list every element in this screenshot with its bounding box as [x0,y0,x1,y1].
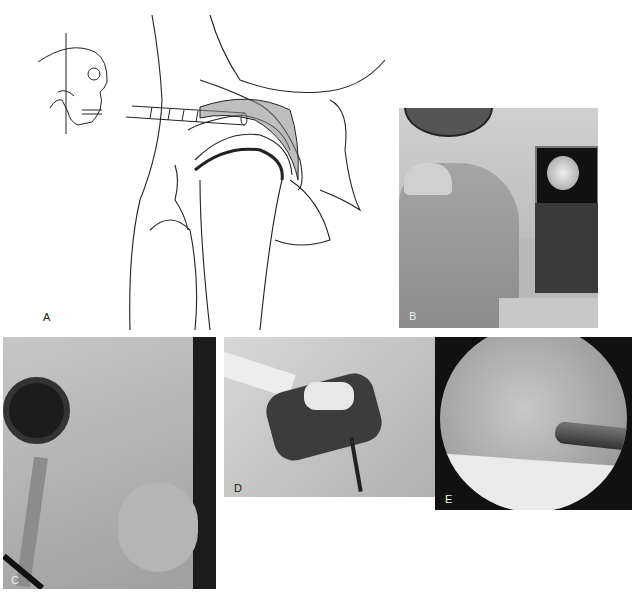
joint-surface [440,454,627,510]
panel-label-e: E [445,493,452,505]
panel-label-a: A [43,311,50,323]
panel-label-c: C [11,574,19,586]
tissue-light [304,382,354,410]
panel-a-illustration: A [0,0,395,330]
surgical-drapes [499,298,598,328]
patient-ear-area [118,482,198,572]
panel-d-photo: D [224,337,435,497]
joint-anatomy [130,15,385,330]
panel-b-photo: B [399,108,598,328]
surgeon-cap [404,163,452,195]
panel-label-b: B [409,310,416,322]
dark-edge [193,337,216,589]
monitor-arthroscopic-view [547,156,579,190]
panel-label-d: D [234,482,242,494]
skull-inset-icon [38,33,107,134]
panel-c-photo: C [3,337,216,589]
tmj-sagittal-drawing [0,0,395,330]
arthroscope-camera [3,377,70,444]
instrument-tip [554,421,627,451]
articular-disc [200,99,298,180]
arthroscopic-circle [440,337,627,510]
panel-e-photo: E [435,337,632,510]
monitor [535,146,598,205]
equipment-tower [535,203,598,293]
